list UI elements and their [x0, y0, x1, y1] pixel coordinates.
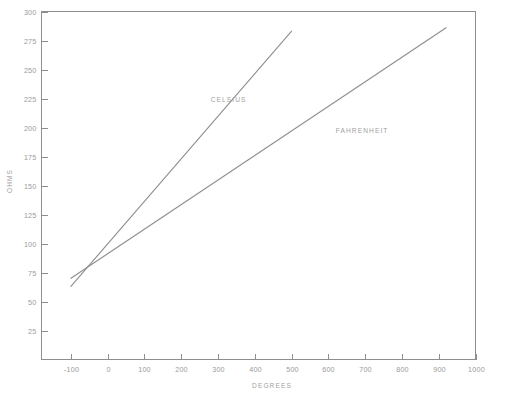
series-label-fahrenheit: FAHRENHEIT — [336, 127, 389, 134]
x-tick-label: 600 — [322, 365, 335, 374]
y-tick-label: 275 — [24, 37, 37, 46]
x-tick-label: 200 — [175, 365, 188, 374]
y-tick-label: 100 — [24, 240, 37, 249]
y-tick-label: 225 — [24, 95, 37, 104]
y-tick-label: 50 — [28, 298, 36, 307]
y-tick-label: 300 — [24, 8, 37, 17]
y-tick-label: 200 — [24, 124, 37, 133]
x-tick-label: 700 — [359, 365, 372, 374]
x-tick-label: 900 — [433, 365, 446, 374]
y-axis-title: OHMS — [6, 169, 13, 193]
chart-container: 255075100125150175200225250275300 -10001… — [0, 0, 508, 407]
x-tick-label: 1000 — [468, 365, 485, 374]
x-tick-label: 0 — [106, 365, 110, 374]
y-tick-label: 175 — [24, 153, 37, 162]
y-tick-label: 75 — [28, 269, 36, 278]
ohms-vs-degrees-line-chart: 255075100125150175200225250275300 -10001… — [0, 0, 508, 407]
x-tick-label: 500 — [286, 365, 299, 374]
y-tick-label: 125 — [24, 211, 37, 220]
series-label-celsius: CELSIUS — [211, 96, 247, 103]
x-tick-label: 100 — [138, 365, 151, 374]
x-tick-label: 300 — [212, 365, 225, 374]
chart-background — [0, 0, 508, 407]
x-tick-label: 800 — [396, 365, 409, 374]
x-tick-label: 400 — [249, 365, 262, 374]
y-tick-label: 250 — [24, 66, 37, 75]
y-tick-label: 25 — [28, 327, 36, 336]
y-tick-label: 150 — [24, 182, 37, 191]
x-tick-label: -100 — [64, 365, 79, 374]
x-axis-title: DEGREES — [252, 382, 292, 389]
